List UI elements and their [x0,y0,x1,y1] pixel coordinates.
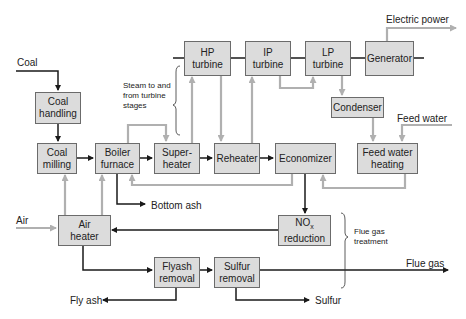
feed-water-label: Feed water [397,113,447,124]
nox-reduction-label: reduction [284,233,325,245]
electric-power-label: Electric power [386,14,449,25]
coal-handling-box: Coal handling [35,92,81,124]
superheater-box: Super- heater [154,143,200,174]
nox-label: NOx [295,217,314,233]
lp-turbine-box: LP turbine [305,41,351,76]
air-label: Air [16,215,28,226]
coal-label: Coal [17,57,38,68]
reheater-box: Reheater [214,143,260,174]
flyash-removal-box: Flyash removal [154,257,200,288]
generator-box: Generator [365,41,414,76]
sulfur-label: Sulfur [315,295,341,306]
sulfur-removal-box: Sulfur removal [214,257,260,288]
condenser-box: Condenser [331,97,384,118]
flue-gas-treatment-label: Flue gas treatment [354,227,388,247]
fly-ash-label: Fly ash [70,295,102,306]
flue-gas-label: Flue gas [406,258,444,269]
bottom-ash-label: Bottom ash [151,200,202,211]
economizer-box: Economizer [275,143,336,174]
nox-reduction-box: NOx reduction [278,215,331,246]
boiler-furnace-box: Boiler furnace [95,143,140,174]
air-heater-box: Air heater [58,215,111,246]
feed-water-heating-box: Feed water heating [357,143,418,174]
coal-milling-box: Coal milling [37,143,77,174]
ip-turbine-box: IP turbine [245,41,291,76]
hp-turbine-box: HP turbine [184,41,231,76]
steam-note-label: Steam to and from turbine stages [123,81,171,111]
